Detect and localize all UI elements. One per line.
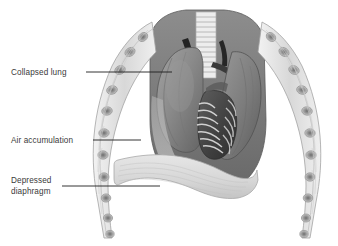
label-collapsed-lung: Collapsed lung [11, 68, 67, 77]
label-depressed-diaphragm-line1: Depressed [11, 176, 52, 185]
label-air-accumulation: Air accumulation [11, 136, 73, 145]
label-depressed-diaphragm-line2: diaphragm [11, 187, 51, 196]
annotation-labels: Collapsed lung Air accumulation Depresse… [11, 68, 73, 196]
pneumothorax-illustration: Collapsed lung Air accumulation Depresse… [0, 0, 338, 246]
right-rib-cage [258, 22, 321, 238]
left-rib-cage [93, 22, 156, 238]
